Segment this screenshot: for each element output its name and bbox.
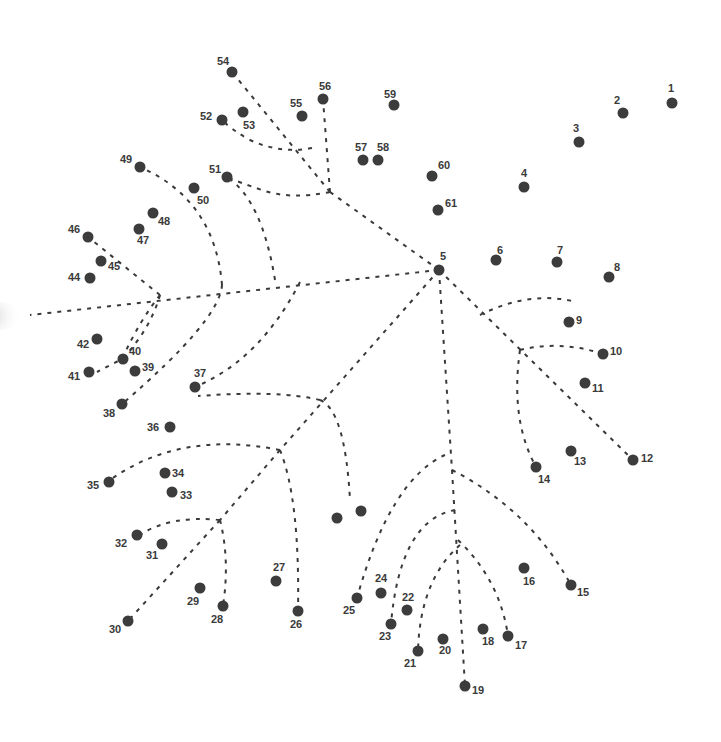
dot-marker[interactable] — [373, 155, 384, 166]
dot-marker[interactable] — [238, 107, 249, 118]
dot-44[interactable]: 44 — [68, 271, 96, 284]
dot-marker[interactable] — [157, 539, 168, 550]
dot-marker[interactable] — [574, 137, 585, 148]
dot-40[interactable]: 40 — [118, 345, 142, 365]
dot-marker[interactable] — [356, 506, 367, 517]
dot-16[interactable]: 16 — [519, 563, 536, 588]
dot-26[interactable]: 26 — [290, 606, 304, 631]
dot-46[interactable]: 46 — [68, 223, 94, 243]
dot-marker[interactable] — [598, 349, 609, 360]
dot-marker[interactable] — [531, 462, 542, 473]
dot-13[interactable]: 13 — [566, 446, 587, 468]
dot-marker[interactable] — [460, 681, 471, 692]
dot-20[interactable]: 20 — [438, 634, 452, 657]
dot-19[interactable]: 19 — [460, 681, 485, 697]
dot-marker[interactable] — [628, 455, 639, 466]
dot-marker[interactable] — [389, 100, 400, 111]
dot-marker[interactable] — [165, 422, 176, 433]
dot-4[interactable]: 4 — [519, 167, 530, 193]
dot-marker[interactable] — [358, 155, 369, 166]
dot-59[interactable]: 59 — [384, 88, 400, 111]
dot-28[interactable]: 28 — [211, 601, 229, 626]
dot-21[interactable]: 21 — [404, 646, 424, 670]
dot-14[interactable]: 14 — [531, 462, 552, 486]
dot-marker[interactable] — [478, 624, 489, 635]
dot-marker[interactable] — [413, 646, 424, 657]
dot-unlabeled[interactable] — [332, 513, 343, 524]
dot-31[interactable]: 31 — [146, 539, 168, 562]
dot-37[interactable]: 37 — [190, 367, 207, 393]
dot-6[interactable]: 6 — [491, 244, 504, 266]
dot-7[interactable]: 7 — [552, 244, 564, 268]
dot-marker[interactable] — [271, 576, 282, 587]
dot-60[interactable]: 60 — [427, 159, 451, 182]
dot-marker[interactable] — [104, 477, 115, 488]
dot-marker[interactable] — [130, 366, 141, 377]
dot-marker[interactable] — [402, 605, 413, 616]
dot-38[interactable]: 38 — [103, 399, 128, 420]
dot-marker[interactable] — [83, 232, 94, 243]
dot-marker[interactable] — [352, 593, 363, 604]
dot-marker[interactable] — [438, 634, 449, 645]
dot-marker[interactable] — [135, 162, 146, 173]
dot-3[interactable]: 3 — [573, 122, 585, 148]
dot-marker[interactable] — [134, 224, 145, 235]
dot-45[interactable]: 45 — [96, 256, 121, 273]
dot-marker[interactable] — [190, 382, 201, 393]
dot-marker[interactable] — [552, 257, 563, 268]
dot-marker[interactable] — [491, 255, 502, 266]
dot-29[interactable]: 29 — [187, 583, 206, 608]
dot-35[interactable]: 35 — [87, 477, 115, 492]
dot-11[interactable]: 11 — [580, 378, 604, 395]
dot-marker[interactable] — [167, 487, 178, 498]
dot-36[interactable]: 36 — [147, 421, 176, 433]
dot-marker[interactable] — [580, 378, 591, 389]
dot-41[interactable]: 41 — [68, 367, 95, 383]
dot-marker[interactable] — [566, 580, 577, 591]
dot-marker[interactable] — [376, 588, 387, 599]
dot-23[interactable]: 23 — [379, 619, 397, 643]
dot-marker[interactable] — [123, 616, 134, 627]
dot-47[interactable]: 47 — [134, 224, 150, 247]
dot-5[interactable]: 5 — [434, 250, 447, 276]
dot-marker[interactable] — [218, 601, 229, 612]
dot-42[interactable]: 42 — [77, 334, 103, 351]
dot-1[interactable]: 1 — [667, 82, 678, 109]
dot-marker[interactable] — [519, 563, 530, 574]
dot-30[interactable]: 30 — [109, 616, 134, 636]
dot-marker[interactable] — [222, 172, 233, 183]
dot-55[interactable]: 55 — [290, 97, 308, 122]
dot-marker[interactable] — [293, 606, 304, 617]
dot-33[interactable]: 33 — [167, 487, 193, 502]
dot-32[interactable]: 32 — [115, 530, 143, 550]
dot-12[interactable]: 12 — [628, 452, 654, 466]
dot-10[interactable]: 10 — [598, 345, 623, 360]
dot-marker[interactable] — [96, 256, 107, 267]
dot-marker[interactable] — [433, 205, 444, 216]
dot-marker[interactable] — [519, 182, 530, 193]
dot-marker[interactable] — [118, 354, 129, 365]
dot-17[interactable]: 17 — [503, 631, 528, 652]
dot-9[interactable]: 9 — [564, 314, 583, 328]
dot-8[interactable]: 8 — [604, 261, 621, 283]
dot-61[interactable]: 61 — [433, 197, 458, 216]
dot-unlabeled[interactable] — [356, 506, 367, 517]
dot-marker[interactable] — [189, 183, 200, 194]
dot-25[interactable]: 25 — [343, 593, 363, 617]
dot-marker[interactable] — [84, 367, 95, 378]
dot-marker[interactable] — [217, 115, 228, 126]
dot-54[interactable]: 54 — [217, 55, 238, 78]
dot-18[interactable]: 18 — [478, 624, 495, 648]
dot-marker[interactable] — [92, 334, 103, 345]
dot-marker[interactable] — [604, 272, 615, 283]
dot-22[interactable]: 22 — [402, 591, 415, 616]
dot-marker[interactable] — [227, 67, 238, 78]
dot-56[interactable]: 56 — [318, 80, 332, 105]
dot-51[interactable]: 51 — [209, 163, 233, 183]
dot-2[interactable]: 2 — [614, 94, 629, 119]
dot-58[interactable]: 58 — [373, 141, 390, 166]
dot-marker[interactable] — [618, 108, 629, 119]
dot-marker[interactable] — [132, 530, 143, 541]
dot-marker[interactable] — [85, 273, 96, 284]
dot-48[interactable]: 48 — [148, 208, 171, 228]
